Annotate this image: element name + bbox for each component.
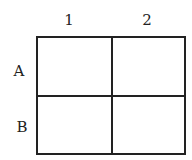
cell-a1 xyxy=(38,38,111,95)
cell-a2 xyxy=(113,38,184,95)
cell-b1 xyxy=(38,97,111,153)
column-header-1: 1 xyxy=(59,13,79,28)
column-header-2: 2 xyxy=(137,13,157,28)
row-header-a: A xyxy=(9,64,29,79)
row-header-b: B xyxy=(12,120,32,135)
cell-b2 xyxy=(113,97,184,153)
